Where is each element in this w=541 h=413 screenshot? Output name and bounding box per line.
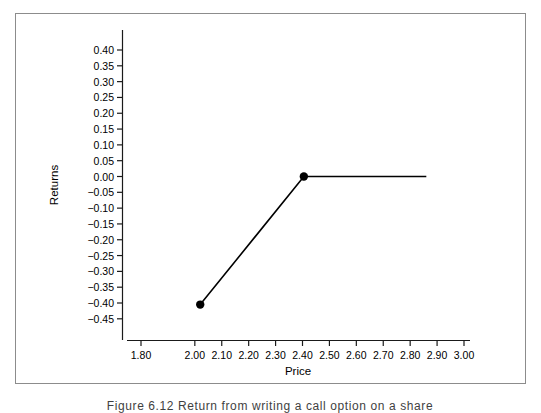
y-axis-tick-label: −0.45 <box>78 313 114 324</box>
y-axis-tick-label: 0.20 <box>78 108 114 119</box>
x-axis-tick-label: 2.60 <box>346 350 366 361</box>
y-axis-tick-label: −0.40 <box>78 298 114 309</box>
y-axis-tick-label: 0.25 <box>78 92 114 103</box>
y-axis-tick-label: −0.30 <box>78 266 114 277</box>
x-axis-tick-label: 2.00 <box>185 350 205 361</box>
x-axis-tick-label: 1.80 <box>131 350 151 361</box>
x-axis-tick-label: 2.70 <box>373 350 393 361</box>
x-axis-tick-label: 3.00 <box>454 350 474 361</box>
y-axis-tick-label: −0.20 <box>78 234 114 245</box>
x-axis-tick-label: 2.80 <box>400 350 420 361</box>
x-axis-title: Price <box>285 365 311 377</box>
x-axis-tick-label: 2.20 <box>238 350 258 361</box>
x-axis-tick-label: 2.10 <box>212 350 232 361</box>
y-axis-tick-label: 0.05 <box>78 155 114 166</box>
x-axis-tick-label: 2.30 <box>265 350 285 361</box>
y-axis-tick-label: 0.15 <box>78 124 114 135</box>
y-axis-tick-label: −0.15 <box>78 218 114 229</box>
y-axis-tick-label: 0.35 <box>78 60 114 71</box>
y-axis-tick-label: 0.40 <box>78 45 114 56</box>
x-axis-tick-label: 2.50 <box>319 350 339 361</box>
y-axis-title: Returns <box>48 165 60 205</box>
y-axis-tick-label: −0.25 <box>78 250 114 261</box>
y-axis-tick-label: 0.30 <box>78 76 114 87</box>
x-axis-tick-label: 2.90 <box>427 350 447 361</box>
y-axis-tick-label: 0.00 <box>78 171 114 182</box>
y-axis-tick-label: −0.35 <box>78 282 114 293</box>
y-axis-tick-label: 0.10 <box>78 139 114 150</box>
figure-caption: Figure 6.12 Return from writing a call o… <box>107 399 433 413</box>
y-axis-tick-label: −0.05 <box>78 187 114 198</box>
y-axis-tick-label: −0.10 <box>78 203 114 214</box>
x-axis-tick-label: 2.40 <box>292 350 312 361</box>
